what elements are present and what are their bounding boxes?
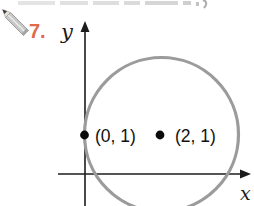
text-remnant-descender: [203, 0, 206, 8]
point-label-2-1: (2, 1): [175, 126, 216, 146]
text-remnant-fragment: [93, 1, 119, 5]
text-remnant-fragment: [183, 1, 191, 5]
text-remnant-fragment: [196, 2, 199, 6]
text-remnant-fragment: [60, 1, 88, 5]
point-dot-0-1: [80, 131, 89, 140]
text-remnant-fragment: [145, 1, 178, 5]
x-axis-arrowhead-icon: [240, 170, 251, 179]
clipped-text-remnant: [18, 0, 206, 8]
point-dot-2-1: [156, 131, 165, 140]
text-remnant-fragment: [18, 1, 55, 5]
text-remnant-fragment: [124, 1, 140, 5]
y-axis-label: y: [60, 20, 74, 44]
problem-number: 7.: [29, 20, 46, 42]
point-label-0-1: (0, 1): [95, 126, 136, 146]
textbook-figure: 7. y x (0, 1) (2, 1): [0, 0, 254, 206]
x-axis-label: x: [240, 182, 251, 204]
coordinate-plane-figure: 7. y x (0, 1) (2, 1): [0, 0, 254, 206]
y-axis-arrowhead-icon: [81, 21, 90, 32]
pencil-icon: [3, 10, 29, 36]
